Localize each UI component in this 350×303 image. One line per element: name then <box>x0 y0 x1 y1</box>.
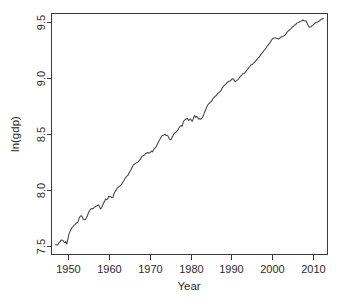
x-axis-tick-labels: 1950196019701980199020002010 <box>56 263 325 275</box>
plot-frame <box>52 14 328 255</box>
x-tick-label: 1970 <box>138 263 162 275</box>
y-tick-label: 8.0 <box>35 183 47 198</box>
chart-figure: 7.58.08.59.09.5 195019601970198019902000… <box>0 0 350 303</box>
y-tick-label: 9.5 <box>35 15 47 30</box>
x-tick-label: 2000 <box>260 263 284 275</box>
y-axis-title: ln(gdp) <box>9 116 21 152</box>
x-tick-label: 2010 <box>301 263 325 275</box>
line-chart-svg: 7.58.08.59.09.5 195019601970198019902000… <box>0 0 350 303</box>
y-axis-ticks <box>47 23 52 247</box>
x-axis-ticks <box>69 255 314 260</box>
x-tick-label: 1950 <box>56 263 80 275</box>
x-tick-label: 1980 <box>179 263 203 275</box>
y-tick-label: 7.5 <box>35 239 47 254</box>
x-tick-label: 1960 <box>97 263 121 275</box>
y-tick-label: 9.0 <box>35 71 47 86</box>
y-axis-tick-labels: 7.58.08.59.09.5 <box>35 15 47 254</box>
series-line-ln-gdp <box>56 19 324 246</box>
x-axis-title: Year <box>177 280 200 292</box>
x-tick-label: 1990 <box>219 263 243 275</box>
y-tick-label: 8.5 <box>35 127 47 142</box>
